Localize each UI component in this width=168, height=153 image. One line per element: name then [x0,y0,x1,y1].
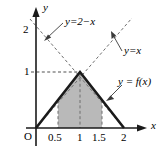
annotation-line-2-minus-x: y=2−x [65,16,95,27]
function-graph-figure: y x O 2 1 0.5 1 1.5 2 y=2−x y=x y = f(x) [0,0,168,153]
x-axis-label: x [151,120,156,131]
x-tick-label-2: 2 [121,132,127,143]
x-tick-label-0-5: 0.5 [48,132,62,143]
x-axis-arrowhead [137,124,147,131]
y-axis-label: y [43,2,48,13]
annotation-line-y-equals-x: y=x [124,45,141,56]
annotation-curve-f-of-x: y = f(x) [118,76,151,87]
leader-line-y-equals-x [113,35,122,51]
y-axis-arrowhead [32,7,39,17]
origin-label: O [24,131,32,142]
leader-line-2-minus-x [47,23,63,38]
x-tick-label-1-5: 1.5 [92,132,106,143]
x-tick-label-1: 1 [77,132,83,143]
leader-arrowhead-f-of-x [106,95,114,101]
y-tick-label-1: 1 [24,66,30,77]
y-tick-label-2: 2 [23,24,29,35]
